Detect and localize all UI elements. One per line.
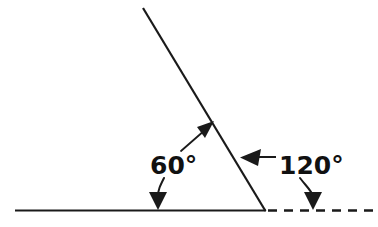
exterior-angle-label: 120° [279, 151, 344, 180]
exterior-angle-slant-arrowhead [240, 149, 261, 166]
exterior-angle-dashed-arrowhead [304, 192, 322, 210]
diagram-canvas: 60° 120° [0, 0, 378, 227]
interior-angle-horizontal-arrowhead [149, 192, 167, 210]
exterior-angle-dashed-pointer [300, 178, 322, 210]
exterior-angle-slant-pointer [240, 149, 276, 166]
interior-angle-slant-pointer-stem [181, 130, 205, 151]
geometry-figure: 60° 120° [0, 0, 378, 227]
interior-angle-slant-pointer [181, 121, 214, 151]
interior-angle-horizontal-pointer [149, 178, 167, 210]
interior-angle-label: 60° [150, 151, 197, 180]
slanted-ray [143, 8, 266, 211]
